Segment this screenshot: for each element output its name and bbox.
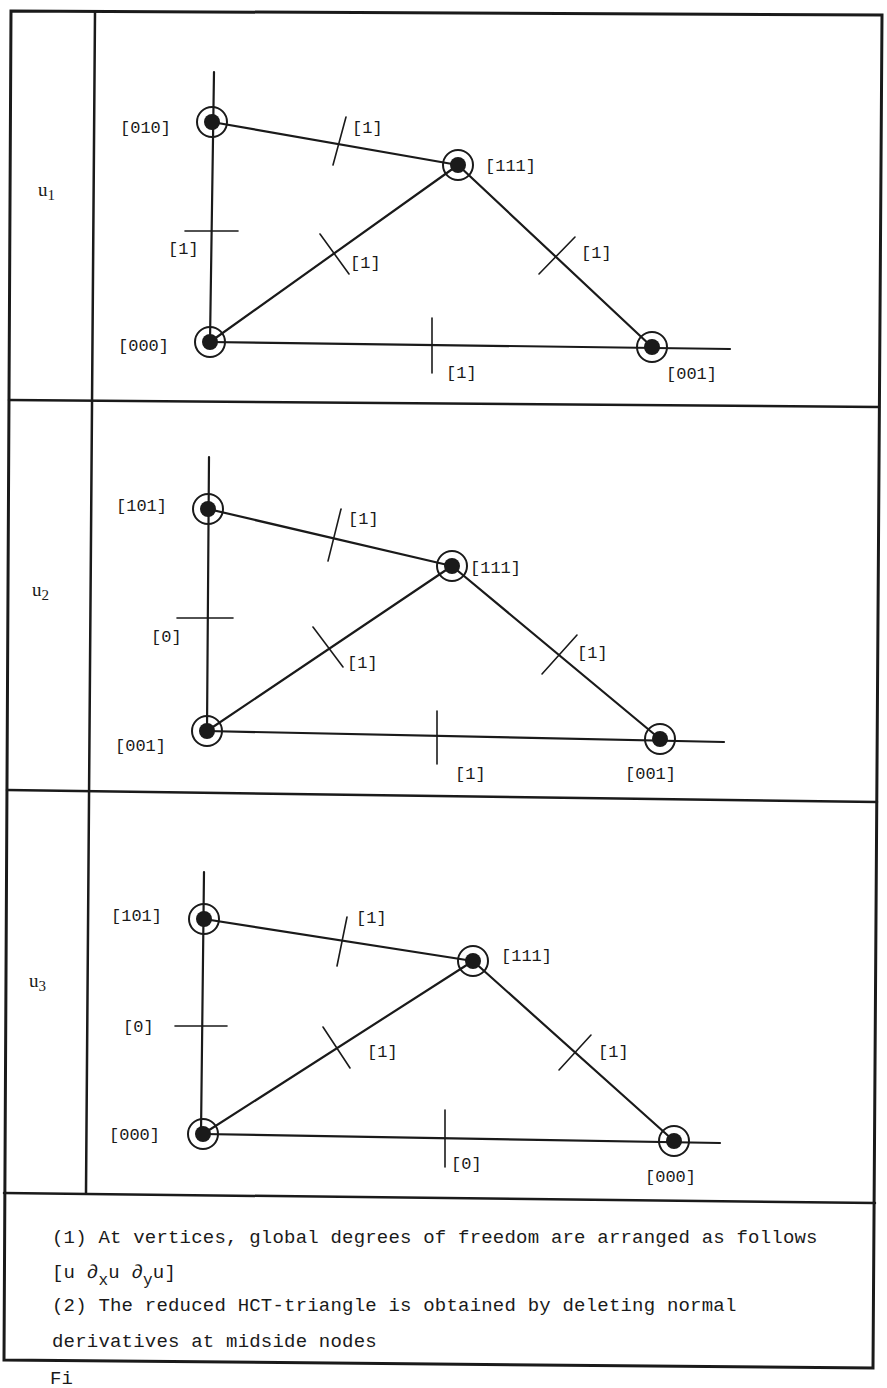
- figure-caption-fragment: Fi: [50, 1370, 73, 1388]
- midside-label: [1]: [352, 120, 383, 137]
- midside-label: [0]: [123, 1019, 154, 1036]
- node-label: [000]: [109, 1127, 160, 1144]
- node-label: [001]: [666, 366, 717, 383]
- node-label: [111]: [470, 560, 521, 577]
- row-divider-2: [7, 790, 877, 802]
- midside-label: [0]: [151, 629, 182, 646]
- note-1-formula: [u ∂xu ∂yu]: [52, 1264, 176, 1283]
- panel-u1: [185, 72, 730, 373]
- midside-label: [1]: [168, 241, 199, 258]
- midside-label: [1]: [577, 645, 608, 662]
- midside-label: [0]: [451, 1156, 482, 1173]
- midside-label: [1]: [350, 255, 381, 272]
- node-label: [111]: [485, 158, 536, 175]
- panel-u2: [177, 457, 724, 764]
- row-divider-3: [4, 1193, 875, 1203]
- midside-label: [1]: [598, 1044, 629, 1061]
- panel-u3: [175, 872, 720, 1167]
- midside-label: [1]: [356, 910, 387, 927]
- midside-label: [1]: [348, 511, 379, 528]
- midside-label: [1]: [367, 1044, 398, 1061]
- midside-label: [1]: [347, 655, 378, 672]
- note-2-line-1: (2) The reduced HCT-triangle is obtained…: [52, 1297, 737, 1316]
- midside-label: [1]: [455, 766, 486, 783]
- node-label: [001]: [115, 738, 166, 755]
- midside-label: [1]: [446, 365, 477, 382]
- table-frame: [4, 11, 882, 1368]
- column-divider: [86, 12, 95, 1193]
- node-label: [010]: [120, 120, 171, 137]
- row-label-u2: u2: [32, 580, 49, 599]
- note-2-line-2: derivatives at midside nodes: [52, 1333, 377, 1352]
- node-label: [101]: [116, 498, 167, 515]
- node-label: [111]: [501, 948, 552, 965]
- node-label: [101]: [111, 908, 162, 925]
- row-divider-1: [9, 400, 879, 407]
- note-1: (1) At vertices, global degrees of freed…: [52, 1229, 818, 1248]
- row-label-u3: u3: [29, 971, 46, 990]
- node-label: [001]: [625, 766, 676, 783]
- node-label: [000]: [118, 338, 169, 355]
- node-label: [000]: [645, 1169, 696, 1186]
- midside-label: [1]: [581, 245, 612, 262]
- row-label-u1: u1: [38, 180, 55, 199]
